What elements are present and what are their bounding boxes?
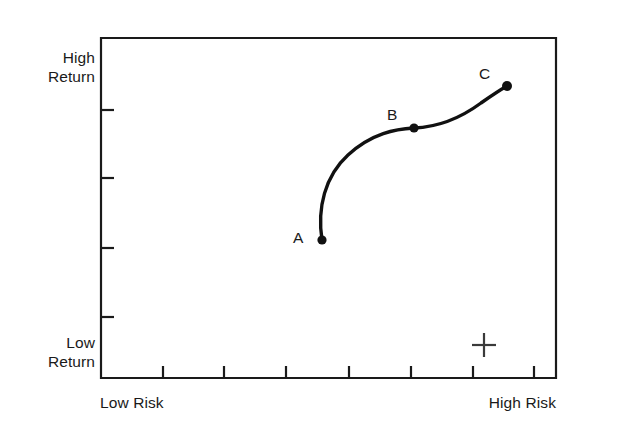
y-axis-ticks	[101, 110, 114, 317]
chart-figure: High Return Low Return Low Risk High Ris…	[0, 0, 626, 444]
plot-frame	[101, 38, 556, 378]
data-point-a-label: A	[293, 229, 303, 246]
plus-marker-icon	[472, 333, 496, 357]
data-point-c-label: C	[479, 65, 490, 82]
data-point-b-label: B	[387, 106, 397, 123]
frontier-curve	[321, 86, 507, 240]
x-axis-ticks	[163, 366, 534, 378]
data-point-c	[502, 81, 512, 91]
data-point-b	[409, 123, 418, 132]
y-axis-bottom-label: Low Return	[48, 333, 95, 371]
x-axis-right-label: High Risk	[489, 393, 556, 412]
axes-border	[101, 38, 556, 378]
data-point-markers	[317, 81, 512, 245]
y-axis-top-label: High Return	[48, 48, 95, 86]
data-point-a	[317, 235, 326, 244]
x-axis-left-label: Low Risk	[100, 393, 164, 412]
